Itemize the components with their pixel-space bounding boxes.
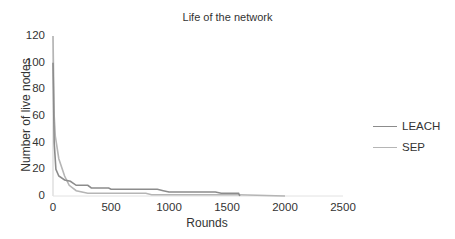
x-tick-label: 2000: [265, 201, 305, 213]
legend-swatch-sep: [373, 147, 397, 148]
series-line-leach: [53, 63, 240, 196]
legend-item-leach: LEACH: [373, 120, 440, 132]
x-tick-label: 1500: [207, 201, 247, 213]
y-tick-label: 120: [15, 29, 45, 41]
x-tick-label: 1000: [149, 201, 189, 213]
legend-item-sep: SEP: [373, 141, 425, 153]
y-tick-label: 0: [15, 189, 45, 201]
series-line-sep: [53, 36, 285, 196]
series-layer: [53, 36, 285, 196]
y-axis-label: Number of live nodes: [19, 55, 33, 175]
legend-label: LEACH: [402, 120, 440, 132]
legend-swatch-leach: [373, 126, 397, 127]
x-tick-label: 2500: [323, 201, 363, 213]
x-tick-label: 500: [91, 201, 131, 213]
x-tick-label: 0: [33, 201, 73, 213]
legend-label: SEP: [402, 141, 425, 153]
x-axis-label: Rounds: [177, 216, 237, 230]
